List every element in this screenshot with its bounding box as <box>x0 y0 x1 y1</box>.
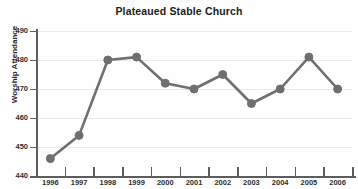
data-point <box>334 85 342 93</box>
data-point <box>190 85 198 93</box>
data-point <box>305 53 313 61</box>
data-point <box>276 85 284 93</box>
data-point <box>133 53 141 61</box>
data-point <box>161 79 169 87</box>
data-point <box>219 71 227 79</box>
data-point <box>75 131 83 139</box>
data-point <box>46 155 54 163</box>
data-point <box>247 100 255 108</box>
series-line <box>50 57 337 159</box>
chart-container: Plateaued Stable Church Worship Attendan… <box>0 0 358 189</box>
data-point <box>104 56 112 64</box>
data-series-worship-attendance <box>0 0 358 189</box>
